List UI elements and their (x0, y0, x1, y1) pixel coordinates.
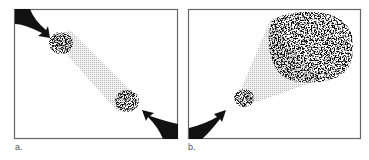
panel-b-label: b. (188, 142, 196, 152)
diagram-canvas (0, 0, 369, 160)
panel-b-small-cluster (234, 89, 254, 107)
panel-a-cluster-top (49, 32, 73, 54)
panel-b-large-cloud (269, 12, 354, 83)
panel-b (189, 10, 361, 140)
panel-a-label: a. (15, 142, 23, 152)
panel-a-cluster-bottom (115, 90, 139, 112)
panel-a (15, 9, 179, 139)
